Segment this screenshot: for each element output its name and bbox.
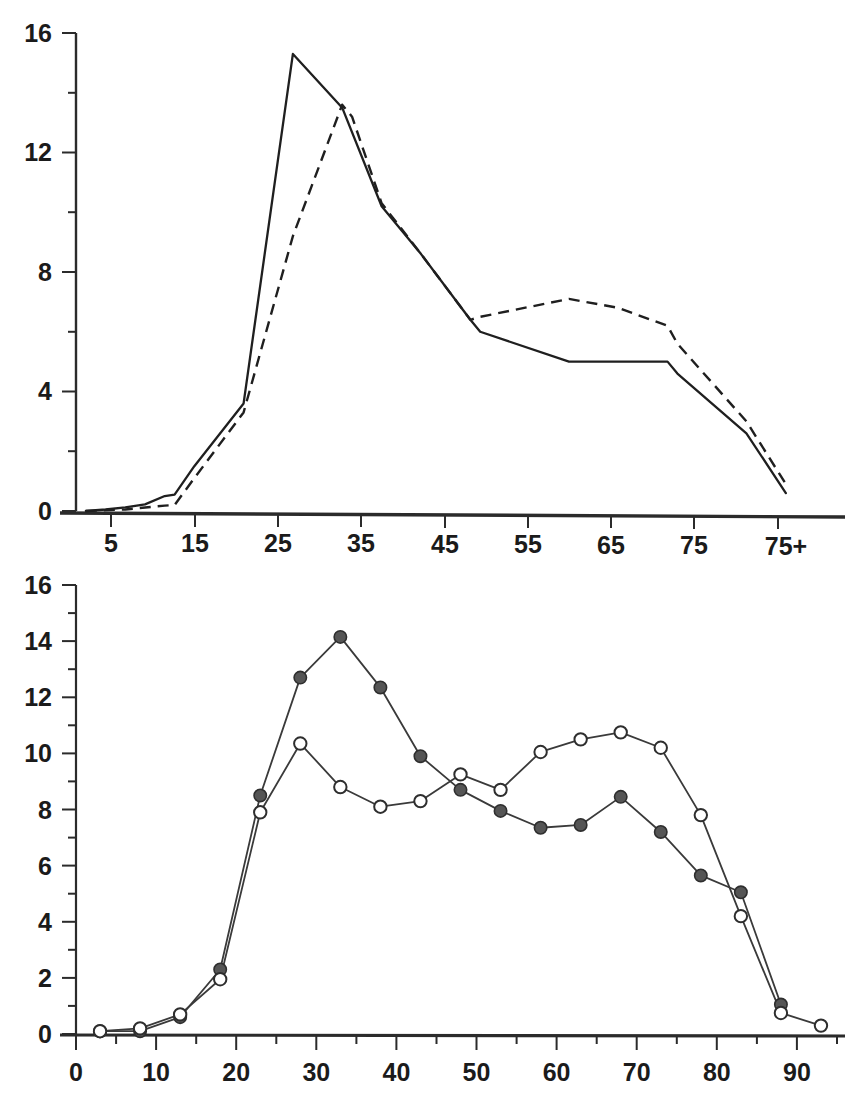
top-series-solid [86,54,786,511]
data-point-open [414,795,426,807]
bottom-y-major-ticks [62,585,76,1034]
data-point-open [214,973,226,985]
top-x-tick-label: 5 [104,529,118,557]
data-point-open [534,746,546,758]
data-point-open [374,800,386,812]
top-x-tick-label: 35 [347,529,375,557]
bottom-x-tick-label: 30 [302,1058,330,1086]
top-series-dashed [86,105,786,511]
bottom-y-tick-label: 16 [24,571,52,599]
data-point-filled [414,750,426,762]
data-point-open [775,1007,787,1019]
top-y-tick-label: 16 [24,19,52,47]
data-point-filled [254,789,266,801]
bottom-x-tick-label: 20 [222,1058,250,1086]
bottom-x-tick-labels: 0102030405060708090 [69,1058,811,1086]
bottom-y-tick-label: 12 [24,683,52,711]
top-x-tick-label: 65 [597,531,625,559]
bottom-y-tick-label: 0 [38,1020,52,1048]
top-x-tick-label: 75+ [765,532,807,560]
top-x-axis-line [60,513,845,517]
top-axes [60,33,845,517]
bottom-x-tick-label: 80 [703,1058,731,1086]
bottom-x-axis-line [60,1035,845,1036]
data-point-open [334,781,346,793]
top-x-tick-label: 25 [264,529,292,557]
bottom-chart-svg: 0246810121416 0102030405060708090 [0,560,857,1119]
top-y-tick-label: 8 [38,258,52,286]
data-point-open [294,737,306,749]
data-point-filled [334,631,346,643]
top-x-tick-label: 75 [680,531,708,559]
data-point-open [94,1025,106,1037]
bottom-y-tick-label: 6 [38,852,52,880]
data-point-filled [494,805,506,817]
bottom-y-tick-label: 2 [38,964,52,992]
data-point-open [494,784,506,796]
chart-panel-top: 16 12 8 4 0 5 15 25 [0,0,857,560]
data-point-filled [374,681,386,693]
data-point-filled [615,791,627,803]
data-point-open [254,806,266,818]
bottom-axes [60,585,845,1036]
data-point-open [815,1019,827,1031]
top-y-major-ticks [62,33,76,511]
data-point-filled [655,826,667,838]
bottom-y-tick-labels: 0246810121416 [24,571,52,1048]
top-x-tick-label: 15 [181,529,209,557]
top-x-tick-label: 55 [514,530,542,558]
data-point-open [655,742,667,754]
data-point-open [454,768,466,780]
top-y-tick-label: 4 [38,377,52,405]
top-x-tick-labels: 5 15 25 35 45 55 65 75 75+ [104,529,807,560]
data-point-filled [574,819,586,831]
data-point-open [174,1008,186,1020]
top-chart-svg: 16 12 8 4 0 5 15 25 [0,0,857,560]
chart-panel-bottom: 0246810121416 0102030405060708090 [0,560,857,1119]
data-point-open [735,910,747,922]
bottom-y-tick-label: 14 [24,627,52,655]
top-x-tick-label: 45 [431,530,459,558]
data-point-open [695,809,707,821]
bottom-series-filled-markers [94,631,787,1038]
bottom-x-tick-label: 70 [623,1058,651,1086]
data-point-filled [695,869,707,881]
data-point-filled [735,886,747,898]
bottom-x-tick-label: 40 [382,1058,410,1086]
top-y-tick-label: 0 [38,497,52,525]
bottom-y-tick-label: 10 [24,739,52,767]
data-point-filled [294,671,306,683]
bottom-x-tick-label: 60 [543,1058,571,1086]
bottom-series-filled-line [100,637,781,1031]
data-point-open [134,1022,146,1034]
figure-page: 16 12 8 4 0 5 15 25 [0,0,857,1119]
bottom-x-tick-label: 50 [463,1058,491,1086]
data-point-open [615,726,627,738]
bottom-y-tick-label: 4 [38,908,52,936]
bottom-x-tick-label: 0 [69,1058,83,1086]
top-y-tick-labels: 16 12 8 4 0 [24,19,52,525]
data-point-filled [454,784,466,796]
top-y-tick-label: 12 [24,138,52,166]
bottom-x-tick-label: 10 [142,1058,170,1086]
data-point-filled [534,822,546,834]
bottom-x-tick-label: 90 [783,1058,811,1086]
data-point-open [574,733,586,745]
bottom-y-tick-label: 8 [38,796,52,824]
